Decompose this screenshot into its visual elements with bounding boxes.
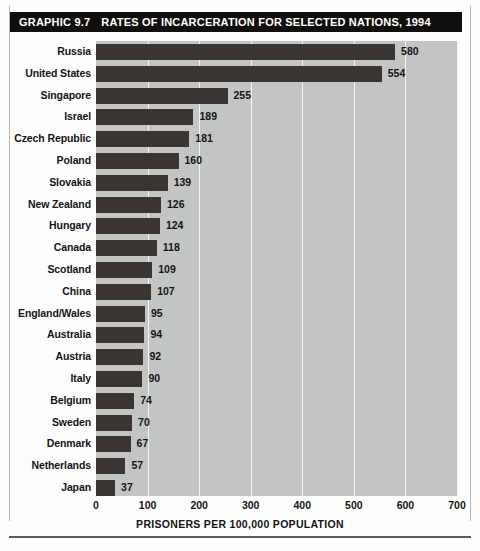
- bar-row: Japan37: [0, 480, 480, 496]
- bar-row: Israel189: [0, 109, 480, 125]
- x-tick-label: 300: [242, 499, 260, 511]
- bar-value-label: 255: [234, 89, 252, 101]
- bar: [96, 66, 382, 82]
- bar-row: United States554: [0, 66, 480, 82]
- bar: [96, 393, 134, 409]
- bar-value-label: 118: [163, 241, 180, 253]
- bar-row: Russia580: [0, 44, 480, 60]
- bar-row: Austria92: [0, 349, 480, 365]
- x-axis-label: PRISONERS PER 100,000 POPULATION: [0, 518, 480, 530]
- x-axis-ticks: 0100200300400500600700: [0, 499, 480, 515]
- title-banner: GRAPHIC 9.7 RATES OF INCARCERATION FOR S…: [10, 12, 462, 32]
- bar-category-label: New Zealand: [28, 198, 91, 210]
- bar-value-label: 37: [121, 481, 133, 493]
- x-tick-label: 700: [448, 499, 466, 511]
- bar-value-label: 109: [158, 263, 176, 275]
- bar-value-label: 181: [195, 132, 213, 144]
- graphic-number: GRAPHIC 9.7: [19, 16, 90, 28]
- bar: [96, 197, 161, 213]
- bar: [96, 436, 131, 452]
- bar: [96, 240, 157, 256]
- bar-value-label: 70: [138, 416, 150, 428]
- bar: [96, 131, 189, 147]
- bar-row: Sweden70: [0, 415, 480, 431]
- bar-value-label: 554: [388, 67, 406, 79]
- bar-category-label: Netherlands: [31, 459, 91, 471]
- bar: [96, 327, 144, 343]
- bar-row: Singapore255: [0, 88, 480, 104]
- bar-row: Slovakia139: [0, 175, 480, 191]
- x-tick-label: 200: [190, 499, 208, 511]
- bar: [96, 44, 395, 60]
- bar-category-label: England/Wales: [18, 307, 91, 319]
- bar-value-label: 160: [185, 154, 203, 166]
- bar-value-label: 92: [149, 350, 161, 362]
- bar-row: Italy90: [0, 371, 480, 387]
- graphic-figure: GRAPHIC 9.7 RATES OF INCARCERATION FOR S…: [0, 0, 480, 551]
- bar-value-label: 107: [157, 285, 175, 297]
- bar-value-label: 580: [401, 45, 419, 57]
- bar: [96, 153, 179, 169]
- bar-category-label: Australia: [47, 328, 91, 340]
- bar-category-label: Israel: [64, 110, 91, 122]
- bar-row: New Zealand126: [0, 197, 480, 213]
- bar-row: Hungary124: [0, 218, 480, 234]
- bar: [96, 349, 143, 365]
- bar-category-label: Austria: [56, 350, 91, 362]
- bar-chart: Russia580United States554Singapore255Isr…: [0, 38, 480, 538]
- bar-category-label: Italy: [70, 372, 91, 384]
- bar-row: Poland160: [0, 153, 480, 169]
- bar-value-label: 139: [174, 176, 192, 188]
- bar-row: Canada118: [0, 240, 480, 256]
- bar: [96, 458, 125, 474]
- bar-value-label: 189: [199, 110, 217, 122]
- bar: [96, 284, 151, 300]
- bar-category-label: United States: [25, 67, 91, 79]
- bar: [96, 371, 142, 387]
- bar-category-label: Russia: [57, 45, 91, 57]
- bar-row: Scotland109: [0, 262, 480, 278]
- bar-value-label: 90: [148, 372, 160, 384]
- bar: [96, 175, 168, 191]
- bar-category-label: Singapore: [41, 89, 91, 101]
- bar-row: Denmark67: [0, 436, 480, 452]
- bar-value-label: 67: [137, 437, 149, 449]
- bar-category-label: Hungary: [49, 219, 91, 231]
- x-tick-label: 100: [139, 499, 157, 511]
- bar: [96, 88, 228, 104]
- bar-value-label: 124: [166, 219, 184, 231]
- bar-category-label: Scotland: [47, 263, 91, 275]
- bar-value-label: 74: [140, 394, 152, 406]
- x-tick-label: 400: [294, 499, 312, 511]
- x-tick-label: 500: [345, 499, 363, 511]
- bar-category-label: Belgium: [50, 394, 91, 406]
- bar-category-label: Canada: [54, 241, 91, 253]
- bar-value-label: 95: [151, 307, 163, 319]
- bar: [96, 415, 132, 431]
- bar-category-label: Poland: [57, 154, 91, 166]
- bar-value-label: 57: [131, 459, 143, 471]
- bar: [96, 480, 115, 496]
- bar-category-label: Slovakia: [49, 176, 91, 188]
- bar-value-label: 126: [167, 198, 185, 210]
- bar-row: Czech Republic181: [0, 131, 480, 147]
- bar-category-label: China: [62, 285, 91, 297]
- page-title: RATES OF INCARCERATION FOR SELECTED NATI…: [101, 16, 430, 28]
- bar-row: China107: [0, 284, 480, 300]
- bar: [96, 262, 152, 278]
- bar-row: Belgium74: [0, 393, 480, 409]
- bar: [96, 306, 145, 322]
- bar-category-label: Japan: [61, 481, 91, 493]
- bar: [96, 218, 160, 234]
- bar-row: Australia94: [0, 327, 480, 343]
- bar-row: England/Wales95: [0, 306, 480, 322]
- bar-category-label: Czech Republic: [14, 132, 91, 144]
- bar: [96, 109, 193, 125]
- bar-category-label: Denmark: [47, 437, 91, 449]
- bar-value-label: 94: [150, 328, 162, 340]
- bar-row: Netherlands57: [0, 458, 480, 474]
- bar-rows: Russia580United States554Singapore255Isr…: [0, 38, 480, 496]
- bar-category-label: Sweden: [52, 416, 91, 428]
- x-tick-label: 0: [93, 499, 99, 511]
- x-tick-label: 600: [397, 499, 415, 511]
